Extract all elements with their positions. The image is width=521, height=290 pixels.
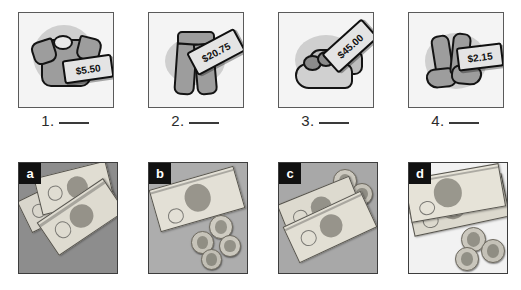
coin-b4 xyxy=(201,249,222,270)
item-cell-4[interactable]: $2.15 4. xyxy=(390,0,520,146)
money-choices-row: a b xyxy=(0,150,521,290)
coin-d3 xyxy=(455,247,479,271)
price-text-1: $5.50 xyxy=(75,62,101,76)
item-cell-2[interactable]: $20.75 2. xyxy=(130,0,260,146)
choice-letter-c: c xyxy=(279,163,301,184)
item-number-4: 4. xyxy=(431,112,445,129)
coin-d2 xyxy=(481,239,505,263)
money-frame-b: b xyxy=(148,162,248,274)
item-frame-3: $45.00 xyxy=(278,12,374,108)
shirt-collar xyxy=(53,35,73,50)
money-cell-c[interactable]: c xyxy=(260,150,390,290)
answer-blank-2[interactable] xyxy=(189,122,219,124)
money-frame-c: c xyxy=(278,162,378,274)
choice-letter-a: a xyxy=(19,163,41,184)
price-tag-4: $2.15 xyxy=(456,42,504,71)
pants-illustration: $20.75 xyxy=(149,13,243,107)
money-matching-worksheet: $5.50 1. $20.75 xyxy=(0,0,521,290)
money-cell-a[interactable]: a xyxy=(0,150,130,290)
item-frame-2: $20.75 xyxy=(148,12,244,108)
money-frame-d: d xyxy=(408,162,508,274)
item-cell-3[interactable]: $45.00 3. xyxy=(260,0,390,146)
money-cell-b[interactable]: b xyxy=(130,150,260,290)
item-number-label-3: 3. xyxy=(260,112,390,129)
price-text-2: $20.75 xyxy=(200,40,232,64)
answer-blank-3[interactable] xyxy=(319,122,349,124)
socks-illustration: $2.15 xyxy=(409,13,503,107)
price-text-4: $2.15 xyxy=(467,50,493,64)
answer-blank-4[interactable] xyxy=(449,122,479,124)
choice-letter-d: d xyxy=(409,163,431,184)
item-number-label-4: 4. xyxy=(390,112,520,129)
coin-b3 xyxy=(219,235,241,257)
item-frame-1: $5.50 xyxy=(18,12,114,108)
item-number-3: 3. xyxy=(301,112,315,129)
items-row: $5.50 1. $20.75 xyxy=(0,0,521,146)
item-frame-4: $2.15 xyxy=(408,12,504,108)
item-number-label-2: 2. xyxy=(130,112,260,129)
item-number-label-1: 1. xyxy=(0,112,130,129)
tshirt-illustration: $5.50 xyxy=(19,13,113,107)
shoes-illustration: $45.00 xyxy=(279,13,373,107)
money-cell-d[interactable]: d xyxy=(390,150,520,290)
money-frame-a: a xyxy=(18,162,118,274)
choice-letter-b: b xyxy=(149,163,171,184)
item-number-1: 1. xyxy=(41,112,55,129)
answer-blank-1[interactable] xyxy=(59,122,89,124)
item-cell-1[interactable]: $5.50 1. xyxy=(0,0,130,146)
item-number-2: 2. xyxy=(171,112,185,129)
